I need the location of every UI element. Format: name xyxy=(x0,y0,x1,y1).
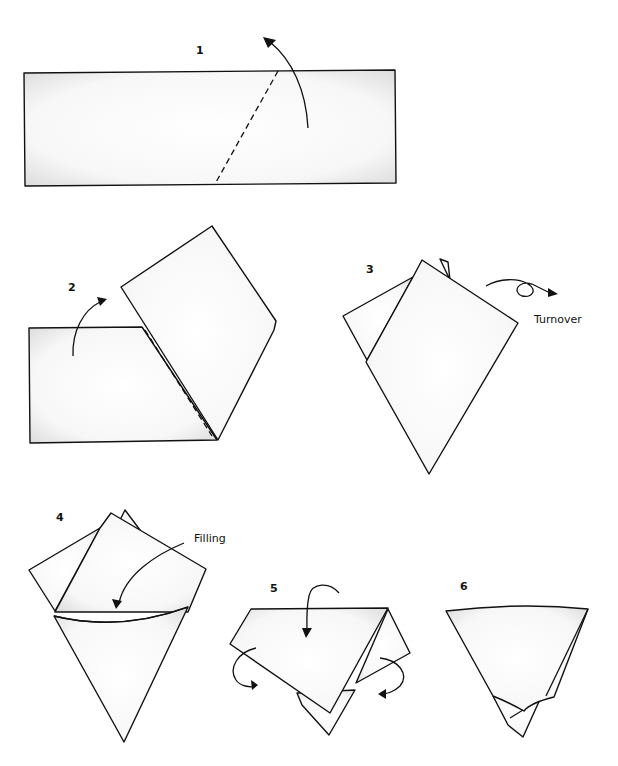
step-5: 5 xyxy=(230,582,410,735)
arrowhead-icon xyxy=(548,288,558,297)
turnover-label: Turnover xyxy=(533,313,582,326)
step-4: 4 Filling xyxy=(29,510,226,742)
step-number: 4 xyxy=(56,511,64,524)
step-number: 2 xyxy=(68,281,76,294)
step-2: 2 xyxy=(29,226,276,443)
napkin-rectangle xyxy=(24,70,396,186)
step-6: 6 xyxy=(446,580,588,737)
step-number: 1 xyxy=(196,44,204,57)
turnover-arrow-icon xyxy=(486,280,548,297)
arrowhead-icon xyxy=(378,689,386,699)
step-number: 6 xyxy=(460,580,468,593)
arrowhead-icon xyxy=(251,680,258,690)
cone-pocket xyxy=(54,607,188,742)
arrowhead-icon xyxy=(97,297,107,306)
step-number: 3 xyxy=(366,263,374,276)
napkin-front-triangle xyxy=(446,606,588,711)
napkin-front-triangle xyxy=(230,608,388,713)
folding-diagram: 1 2 3 Turnover 4 Filling 5 xyxy=(0,0,618,766)
step-1: 1 xyxy=(24,37,396,186)
step-number: 5 xyxy=(270,582,278,595)
step-3: 3 Turnover xyxy=(343,259,582,474)
filling-label: Filling xyxy=(194,532,226,545)
